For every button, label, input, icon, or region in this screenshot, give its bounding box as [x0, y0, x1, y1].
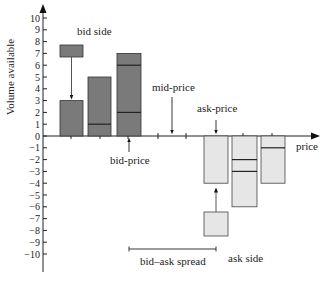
y-axis-label: Volume available — [4, 39, 16, 116]
spread-label: bid–ask spread — [140, 255, 206, 267]
y-tick-label: −7 — [29, 213, 40, 224]
y-tick-label: 10 — [30, 13, 40, 24]
y-tick-label: −10 — [24, 249, 40, 260]
y-tick-label: −8 — [29, 225, 40, 236]
order-book-diagram: 109876543210−1−2−3−4−5−6−7−8−9−10 Volume… — [0, 0, 324, 282]
y-tick-label: −3 — [29, 166, 40, 177]
y-tick-label: 2 — [35, 107, 40, 118]
y-tick-label: −5 — [29, 190, 40, 201]
y-tick-label: −9 — [29, 237, 40, 248]
ask-bar-1 — [204, 136, 228, 183]
y-tick-label: 9 — [35, 24, 40, 35]
ask-price-label: ask-price — [197, 102, 237, 114]
bid-price-label: bid-price — [110, 154, 150, 166]
y-tick-label: 3 — [35, 95, 40, 106]
ask-incoming-order — [204, 212, 228, 236]
y-tick-label: 7 — [35, 48, 40, 59]
y-axis-arrow-icon — [40, 4, 47, 13]
bid-bar-1 — [60, 101, 83, 136]
ask-side-bars — [204, 136, 285, 236]
y-tick-label: −2 — [29, 154, 40, 165]
y-tick-label: 1 — [35, 119, 40, 130]
bid-bar-2 — [88, 77, 111, 136]
y-tick-label: 4 — [35, 83, 40, 94]
x-axis-label: price — [296, 140, 318, 152]
y-tick-label: −1 — [29, 142, 40, 153]
y-tick-label: 0 — [35, 131, 40, 142]
ask-bar-3 — [261, 136, 285, 183]
x-axis-arrow-icon — [311, 133, 320, 140]
bid-side-label: bid side — [77, 25, 112, 37]
y-tick-label: −6 — [29, 201, 40, 212]
y-tick-label: 6 — [35, 60, 40, 71]
spread-bracket — [129, 247, 216, 252]
bid-incoming-order — [60, 45, 83, 57]
bid-side-bars — [60, 45, 141, 136]
ask-side-label: ask side — [228, 252, 263, 264]
y-tick-label: 8 — [35, 36, 40, 47]
mid-price-label: mid-price — [152, 81, 195, 93]
y-tick-label: 5 — [35, 72, 40, 83]
y-tick-label: −4 — [29, 178, 40, 189]
